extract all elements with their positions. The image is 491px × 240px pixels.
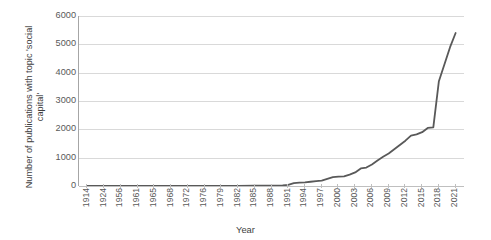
x-axis-tick-1976: 1976 [198,188,209,207]
x-axis-tickmark-1985 [254,184,255,188]
x-axis-tickmark-1991 [287,184,288,188]
x-axis-tickmark-1956 [120,184,121,188]
x-axis-tickmark-1982 [237,184,238,188]
y-axis-tick-labels: 6000500040003000200010000 [36,0,76,240]
x-axis-tick-2018: 2018 [432,188,443,207]
y-axis-tick-0: 0 [42,180,76,190]
x-axis-tick-1965: 1965 [148,188,159,207]
x-axis-tickmark-1965 [153,184,154,188]
y-axis-tick-5000: 5000 [42,38,76,48]
x-axis-tickmark-1997 [321,184,322,188]
plot-area [78,16,463,186]
x-axis-tick-2012: 2012 [399,188,410,207]
x-axis-tickmark-1994 [304,184,305,188]
x-axis-tickmark-2018 [438,184,439,188]
y-axis-tick-3000: 3000 [42,95,76,105]
x-axis-tick-2009: 2009 [382,188,393,207]
x-axis-tick-1985: 1985 [248,188,259,207]
y-axis-title-line1: Number of publications with topic 'socia… [24,12,35,202]
data-line-svg [79,16,464,186]
x-axis-tick-1997: 1997 [315,188,326,207]
x-axis-tickmark-1924 [103,184,104,188]
x-axis-tickmark-2006 [371,184,372,188]
x-axis-tick-2003: 2003 [349,188,360,207]
x-axis-tick-1914: 1914 [81,188,92,207]
x-axis-title: Year [0,224,491,235]
y-axis-tick-1000: 1000 [42,152,76,162]
x-axis-tick-2006: 2006 [365,188,376,207]
x-axis-tick-1956: 1956 [114,188,125,207]
y-axis-tick-4000: 4000 [42,67,76,77]
x-axis-tick-2021: 2021 [449,188,460,207]
x-axis-tickmark-2021 [455,184,456,188]
y-axis-tick-6000: 6000 [42,10,76,20]
x-axis-tickmark-1979 [220,184,221,188]
x-axis-tick-2000: 2000 [332,188,343,207]
x-axis-tickmark-1968 [170,184,171,188]
x-axis-tick-1988: 1988 [265,188,276,207]
series-line-social-capital [87,33,455,186]
x-axis-tick-1972: 1972 [181,188,192,207]
x-axis-tickmark-1988 [271,184,272,188]
x-axis-tickmark-1914 [86,184,87,188]
x-axis-tick-1991: 1991 [282,188,293,207]
x-axis-tickmark-2003 [354,184,355,188]
y-axis-tick-2000: 2000 [42,123,76,133]
x-axis-tick-1994: 1994 [298,188,309,207]
x-axis-tickmark-1961 [137,184,138,188]
chart-figure: Number of publications with topic 'socia… [0,0,491,240]
x-axis-tick-1982: 1982 [232,188,243,207]
x-axis-tickmark-2000 [337,184,338,188]
x-axis-tick-1979: 1979 [215,188,226,207]
x-axis-tickmark-1976 [204,184,205,188]
x-axis-tickmark-2009 [388,184,389,188]
x-axis-tickmark-1972 [187,184,188,188]
x-axis-tickmark-2015 [421,184,422,188]
x-axis-tick-1968: 1968 [165,188,176,207]
x-axis-tickmark-2012 [404,184,405,188]
x-axis-tick-2015: 2015 [416,188,427,207]
x-axis-tick-1924: 1924 [98,188,109,207]
x-axis-tick-1961: 1961 [131,188,142,207]
